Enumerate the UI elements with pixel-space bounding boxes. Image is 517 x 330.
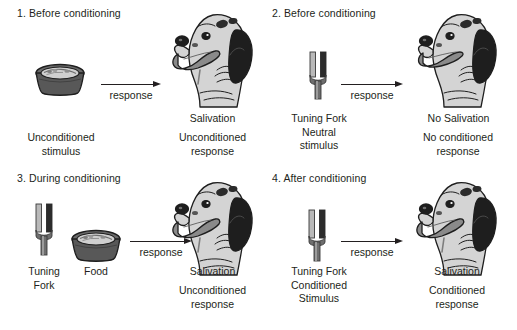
tuning-fork-icon <box>304 51 332 100</box>
panel-2-title: 2. Before conditioning <box>272 7 376 19</box>
dog-head-salivating-icon <box>414 178 500 278</box>
dog-head-salivating-icon <box>170 178 256 278</box>
food-bowl-icon <box>33 62 87 96</box>
panel-during-conditioning: 3. During conditioning <box>0 165 258 330</box>
arrow-label-2: response <box>350 89 393 102</box>
panel-1-stimulus-caption: Unconditioned stimulus <box>6 131 116 158</box>
panel-1-response-caption: Salivation <box>155 112 270 126</box>
conditioning-diagram: 1. Before conditioning response <box>0 0 517 330</box>
panel-4-stimulus-caption: Tuning Fork Conditioned Stimulus <box>269 265 369 306</box>
tuning-fork-icon <box>30 203 58 256</box>
tuning-fork-icon <box>303 209 331 262</box>
arrow-label-4: response <box>350 246 393 259</box>
panel-2-response-caption: No Salivation <box>401 112 516 126</box>
panel-1-title: 1. Before conditioning <box>17 7 121 19</box>
panel-4-response-sub-caption: Conditioned response <box>399 284 515 311</box>
panel-before-conditioning-2: 2. Before conditioning response <box>259 0 517 165</box>
dog-head-salivating-icon <box>170 10 256 110</box>
panel-3-stimulus-caption-fork: Tuning Fork <box>12 265 76 292</box>
panel-4-response-caption: Salivation <box>401 265 513 279</box>
panel-after-conditioning: 4. After conditioning response <box>259 165 517 330</box>
panel-3-response-caption: Salivation <box>155 265 270 279</box>
panel-2-stimulus-caption: Tuning Fork Neutral stimulus <box>269 112 369 153</box>
panel-3-response-sub-caption: Unconditioned response <box>150 284 275 311</box>
panel-4-title: 4. After conditioning <box>272 172 366 184</box>
panel-1-response-sub-caption: Unconditioned response <box>150 131 275 158</box>
food-bowl-icon <box>69 228 123 262</box>
panel-before-conditioning-1: 1. Before conditioning response <box>0 0 258 165</box>
arrow-label-1: response <box>109 89 152 102</box>
panel-3-stimulus-caption-food: Food <box>70 265 122 279</box>
panel-2-response-sub-caption: No conditioned response <box>397 131 517 158</box>
panel-3-title: 3. During conditioning <box>17 172 121 184</box>
dog-head-icon <box>414 10 500 110</box>
